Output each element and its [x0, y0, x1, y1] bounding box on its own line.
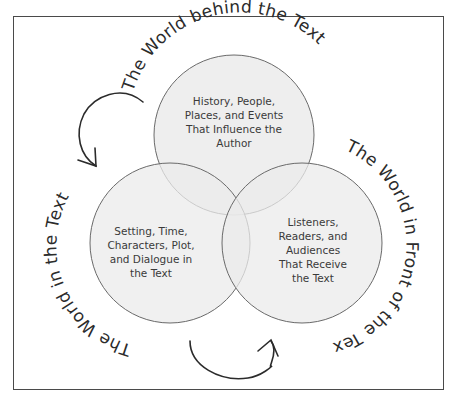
svg-text:Characters, Plot,: Characters, Plot, — [107, 239, 194, 251]
svg-text:the Text: the Text — [130, 267, 172, 279]
svg-text:Setting, Time,: Setting, Time, — [114, 225, 187, 237]
curved-arrow-bottom-icon — [190, 340, 278, 379]
svg-text:Audiences: Audiences — [286, 244, 340, 256]
svg-text:Readers, and: Readers, and — [278, 230, 347, 242]
svg-text:That Receive: That Receive — [278, 258, 347, 270]
svg-text:That Influence the: That Influence the — [185, 123, 282, 135]
svg-text:Listeners,: Listeners, — [287, 216, 338, 228]
svg-text:Author: Author — [216, 137, 252, 149]
svg-text:Places, and Events: Places, and Events — [185, 109, 284, 121]
svg-text:and Dialogue in: and Dialogue in — [110, 253, 193, 265]
venn-diagram: The World behind the Text The World in t… — [0, 0, 459, 406]
curved-arrow-upper-left-icon — [78, 93, 143, 166]
circle-right — [222, 163, 382, 323]
svg-text:History, People,: History, People, — [193, 95, 275, 107]
svg-text:the Text: the Text — [292, 272, 334, 284]
